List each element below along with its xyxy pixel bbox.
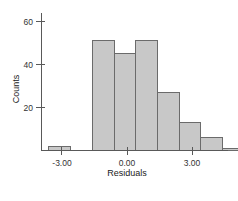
histogram-bar xyxy=(157,92,179,150)
histogram-bar xyxy=(179,123,201,151)
x-axis-tick-label: 0.00 xyxy=(119,158,136,168)
bars-group xyxy=(49,41,238,151)
histogram-bar xyxy=(201,138,223,151)
histogram-bar xyxy=(49,146,71,150)
histogram-bar xyxy=(92,41,114,151)
histogram-chart: 204060-3.000.003.00 Residuals Counts xyxy=(0,0,238,201)
histogram-figure: 204060-3.000.003.00 Residuals Counts xyxy=(0,0,238,201)
x-axis-title: Residuals xyxy=(107,168,147,178)
y-axis-tick-label: 40 xyxy=(24,60,34,70)
histogram-bar xyxy=(114,54,136,151)
y-axis-tick-label: 20 xyxy=(24,103,34,113)
x-axis-tick-label: -3.00 xyxy=(52,158,72,168)
histogram-bar xyxy=(136,41,158,151)
x-axis-tick-label: 3.00 xyxy=(184,158,201,168)
y-axis-title: Counts xyxy=(11,74,21,103)
y-axis-tick-label: 60 xyxy=(24,17,34,27)
